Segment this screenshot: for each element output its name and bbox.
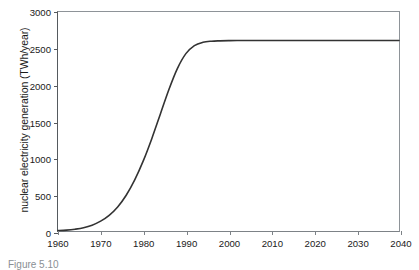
x-axis-tick xyxy=(187,231,188,235)
x-axis-tick xyxy=(101,231,102,235)
y-axis-tick-label: 500 xyxy=(35,191,51,202)
x-axis-tick xyxy=(272,231,273,235)
y-axis-tick-label: 1000 xyxy=(30,154,51,165)
x-axis-tick-label: 1960 xyxy=(47,238,68,249)
y-axis-tick xyxy=(54,86,58,87)
y-axis-tick-label: 2000 xyxy=(30,80,51,91)
figure-nuclear-electricity-generation: nuclear electricity generation (TWh/year… xyxy=(0,0,419,270)
chart-screenshot: nuclear electricity generation (TWh/year… xyxy=(0,0,419,270)
x-axis-tick-label: 1970 xyxy=(90,238,111,249)
x-axis-tick xyxy=(358,231,359,235)
y-axis-tick xyxy=(54,49,58,50)
x-axis-tick xyxy=(315,231,316,235)
x-axis-tick xyxy=(58,231,59,235)
y-axis-tick-label: 1500 xyxy=(30,117,51,128)
y-axis-tick-label: 0 xyxy=(46,228,51,239)
x-axis-tick xyxy=(144,231,145,235)
logistic-curve xyxy=(58,12,399,231)
x-axis-tick-label: 2010 xyxy=(262,238,283,249)
y-axis-tick xyxy=(54,196,58,197)
x-axis-tick-label: 2040 xyxy=(390,238,411,249)
series-line-path xyxy=(58,40,399,230)
x-axis-tick-label: 2020 xyxy=(305,238,326,249)
figure-caption: Figure 5.10 xyxy=(8,259,59,270)
x-axis-tick-label: 2030 xyxy=(347,238,368,249)
y-axis-title: nuclear electricity generation (TWh/year… xyxy=(18,0,30,240)
y-axis-tick-label: 2500 xyxy=(30,43,51,54)
y-axis-tick xyxy=(54,12,58,13)
y-axis-tick-label: 3000 xyxy=(30,7,51,18)
x-axis-tick xyxy=(401,231,402,235)
x-axis-tick-label: 1980 xyxy=(133,238,154,249)
plot-area: 0500100015002000250030001960197019801990… xyxy=(57,11,400,232)
y-axis-tick xyxy=(54,123,58,124)
x-axis-tick-label: 1990 xyxy=(176,238,197,249)
y-axis-tick xyxy=(54,159,58,160)
x-axis-tick-label: 2000 xyxy=(219,238,240,249)
x-axis-tick xyxy=(230,231,231,235)
